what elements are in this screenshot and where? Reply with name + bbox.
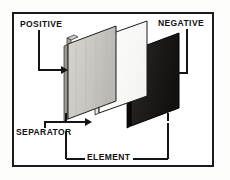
element-bracket-left-riser bbox=[65, 131, 67, 159]
negative-leader-horizontal bbox=[172, 72, 188, 74]
separator-tick bbox=[65, 113, 67, 122]
label-element: ELEMENT bbox=[87, 152, 130, 162]
label-positive: POSITIVE bbox=[20, 19, 62, 29]
element-bracket-right-riser bbox=[167, 123, 169, 159]
diagram-root: POSITIVE NEGATIVE SEPARATOR ELEMENT bbox=[0, 0, 230, 180]
element-bracket-right bbox=[133, 158, 168, 160]
positive-leader-horizontal bbox=[38, 69, 62, 71]
label-negative: NEGATIVE bbox=[158, 18, 204, 28]
label-separator: SEPARATOR bbox=[16, 127, 72, 137]
element-bracket-right-tick bbox=[167, 113, 169, 121]
positive-leader-arrowhead bbox=[61, 66, 68, 74]
positive-leader-vertical bbox=[38, 30, 40, 71]
element-bracket-left bbox=[66, 158, 85, 160]
separator-leader-arrowhead bbox=[85, 118, 92, 126]
negative-leader-vertical bbox=[186, 29, 188, 74]
negative-leader-arrowhead bbox=[165, 69, 172, 77]
